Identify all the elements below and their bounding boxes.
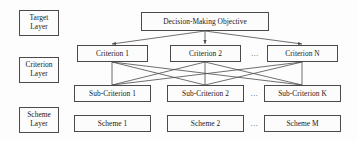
- node-sub-criterion-1-label: Sub-Criterion 1: [89, 90, 136, 98]
- node-sub-criterion-k: Sub-Criterion K: [264, 85, 341, 102]
- node-sub-criterion-2-label: Sub-Criterion 2: [182, 90, 229, 98]
- hierarchy-diagram: Target Layer Criterion Layer Scheme Laye…: [0, 0, 357, 141]
- node-scheme-2: Scheme 2: [167, 115, 244, 132]
- layer-label-scheme: Scheme Layer: [19, 107, 59, 133]
- node-scheme-m: Scheme M: [264, 115, 341, 132]
- node-criterion-2-label: Criterion 2: [189, 50, 222, 58]
- layer-label-scheme-line2: Layer: [30, 120, 47, 129]
- edge-criterion-2-to-subcriteria: [112, 62, 302, 85]
- node-decision-making-objective: Decision-Making Objective: [141, 12, 269, 31]
- layer-label-criterion-line2: Layer: [30, 70, 47, 79]
- ellipsis-criterion-row: ...: [244, 45, 266, 62]
- node-criterion-1-label: Criterion 1: [96, 50, 129, 58]
- edge-criterion-1-to-subcriteria: [112, 62, 302, 85]
- node-scheme-m-label: Scheme M: [286, 120, 318, 128]
- node-decision-making-objective-label: Decision-Making Objective: [163, 18, 247, 26]
- node-scheme-2-label: Scheme 2: [191, 120, 220, 128]
- edge-criterion-n-to-subcriteria: [112, 62, 302, 85]
- ellipsis-scheme-row: ...: [245, 115, 264, 132]
- node-sub-criterion-1: Sub-Criterion 1: [74, 85, 151, 102]
- edge-objective-to-criteria: [112, 31, 302, 44]
- node-scheme-1-label: Scheme 1: [98, 120, 127, 128]
- node-criterion-2: Criterion 2: [170, 45, 241, 62]
- node-criterion-n-label: Criterion N: [285, 50, 319, 58]
- node-criterion-n: Criterion N: [267, 45, 338, 62]
- node-sub-criterion-k-label: Sub-Criterion K: [278, 90, 327, 98]
- ellipsis-sub-criterion-row: ...: [245, 85, 264, 102]
- layer-label-target-line2: Layer: [30, 23, 47, 32]
- node-sub-criterion-2: Sub-Criterion 2: [167, 85, 244, 102]
- node-criterion-1: Criterion 1: [77, 45, 148, 62]
- node-scheme-1: Scheme 1: [74, 115, 151, 132]
- layer-label-target: Target Layer: [19, 10, 59, 36]
- layer-label-criterion: Criterion Layer: [19, 57, 59, 83]
